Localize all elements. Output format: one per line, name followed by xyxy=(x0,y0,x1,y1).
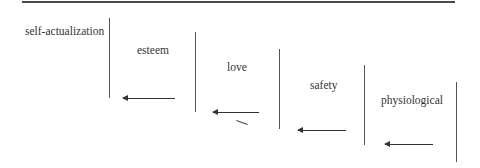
level-label-physiological: physiological xyxy=(381,94,443,106)
arrow-physiological xyxy=(385,144,433,145)
arrow-love xyxy=(213,112,259,113)
step-divider-1 xyxy=(109,18,110,98)
step-divider-3 xyxy=(279,49,280,129)
step-divider-4 xyxy=(364,65,365,145)
tick-mark xyxy=(236,120,248,125)
level-label-safety: safety xyxy=(310,79,337,91)
arrow-safety xyxy=(298,130,346,131)
arrow-esteem xyxy=(123,98,175,99)
level-label-love: love xyxy=(227,61,247,73)
level-label-esteem: esteem xyxy=(137,44,169,56)
step-divider-2 xyxy=(195,32,196,112)
step-divider-5 xyxy=(456,82,457,162)
level-label-self-actualization: self-actualization xyxy=(25,25,104,37)
top-rule xyxy=(22,1,455,3)
